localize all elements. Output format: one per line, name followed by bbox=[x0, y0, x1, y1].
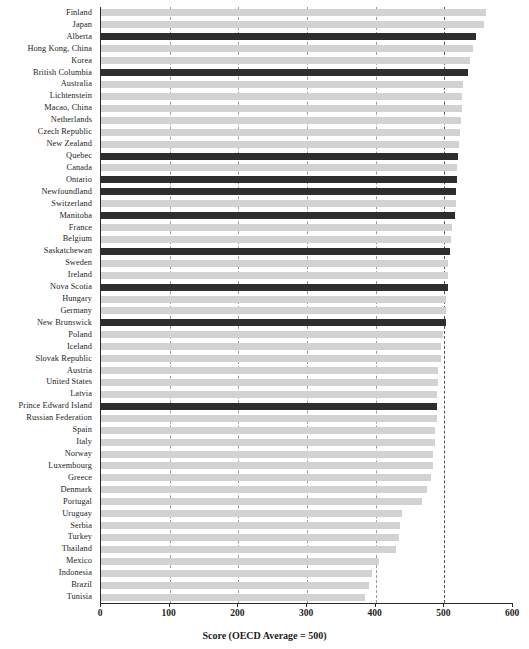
bar bbox=[101, 153, 458, 160]
category-label: Lichtenstein bbox=[0, 91, 92, 100]
x-tick-mark bbox=[100, 603, 101, 607]
category-label: Serbia bbox=[0, 521, 92, 530]
category-label-column: FinlandJapanAlbertaHong Kong, ChinaKorea… bbox=[0, 0, 96, 600]
bar bbox=[101, 33, 476, 40]
category-label: Iceland bbox=[0, 342, 92, 351]
bar bbox=[101, 9, 486, 16]
bar bbox=[101, 296, 446, 303]
category-label: Luxembourg bbox=[0, 461, 92, 470]
category-label: Hong Kong, China bbox=[0, 44, 92, 53]
category-label: Austria bbox=[0, 366, 92, 375]
category-label: Canada bbox=[0, 163, 92, 172]
category-label: Turkey bbox=[0, 532, 92, 541]
category-label: Thailand bbox=[0, 544, 92, 553]
bar bbox=[101, 486, 427, 493]
category-label: Denmark bbox=[0, 485, 92, 494]
bar bbox=[101, 391, 437, 398]
bar bbox=[101, 117, 461, 124]
bar bbox=[101, 355, 441, 362]
bar bbox=[101, 57, 470, 64]
category-label: Czech Republic bbox=[0, 127, 92, 136]
bar bbox=[101, 427, 435, 434]
plot-area bbox=[100, 7, 513, 604]
x-tick-label: 300 bbox=[299, 608, 313, 618]
category-label: Ireland bbox=[0, 270, 92, 279]
category-label: Tunisia bbox=[0, 592, 92, 601]
category-label: Uruguay bbox=[0, 509, 92, 518]
category-label: Poland bbox=[0, 330, 92, 339]
bar bbox=[101, 45, 473, 52]
category-label: Netherlands bbox=[0, 115, 92, 124]
bar bbox=[101, 343, 441, 350]
x-tick-mark bbox=[237, 603, 238, 607]
category-label: Latvia bbox=[0, 389, 92, 398]
category-label: Nova Scotia bbox=[0, 282, 92, 291]
category-label: United States bbox=[0, 377, 92, 386]
bar bbox=[101, 319, 446, 326]
category-label: Prince Edward Island bbox=[0, 401, 92, 410]
category-label: Switzerland bbox=[0, 199, 92, 208]
category-label: Japan bbox=[0, 20, 92, 29]
bar bbox=[101, 522, 400, 529]
bar bbox=[101, 21, 484, 28]
bar bbox=[101, 594, 365, 601]
bar bbox=[101, 188, 456, 195]
x-tick-label: 400 bbox=[368, 608, 382, 618]
category-label: Indonesia bbox=[0, 568, 92, 577]
bar bbox=[101, 367, 438, 374]
bar bbox=[101, 176, 457, 183]
bar bbox=[101, 474, 431, 481]
bar bbox=[101, 93, 462, 100]
bar bbox=[101, 439, 435, 446]
category-label: Slovak Republic bbox=[0, 354, 92, 363]
x-tick-mark bbox=[306, 603, 307, 607]
category-label: Manitoba bbox=[0, 211, 92, 220]
bar bbox=[101, 498, 422, 505]
bar bbox=[101, 582, 369, 589]
bar bbox=[101, 129, 460, 136]
category-label: Macao, China bbox=[0, 103, 92, 112]
category-label: Alberta bbox=[0, 32, 92, 41]
category-label: Greece bbox=[0, 473, 92, 482]
category-label: Saskatchewan bbox=[0, 246, 92, 255]
category-label: Spain bbox=[0, 425, 92, 434]
bar bbox=[101, 331, 443, 338]
category-label: Belgium bbox=[0, 234, 92, 243]
category-label: Russian Federation bbox=[0, 413, 92, 422]
category-label: Sweden bbox=[0, 258, 92, 267]
bar bbox=[101, 224, 452, 231]
x-tick-mark bbox=[443, 603, 444, 607]
category-label: Italy bbox=[0, 437, 92, 446]
x-tick-mark bbox=[512, 603, 513, 607]
bar bbox=[101, 141, 459, 148]
bar bbox=[101, 272, 448, 279]
bar bbox=[101, 570, 372, 577]
bars-layer bbox=[101, 7, 513, 603]
category-label: Quebec bbox=[0, 151, 92, 160]
bar bbox=[101, 248, 450, 255]
category-label: British Columbia bbox=[0, 68, 92, 77]
category-label: Hungary bbox=[0, 294, 92, 303]
bar bbox=[101, 546, 396, 553]
category-label: Portugal bbox=[0, 497, 92, 506]
bar bbox=[101, 200, 456, 207]
x-tick-label: 0 bbox=[98, 608, 103, 618]
x-tick-mark bbox=[169, 603, 170, 607]
x-tick-label: 500 bbox=[436, 608, 450, 618]
category-label: Norway bbox=[0, 449, 92, 458]
bar bbox=[101, 260, 448, 267]
bar bbox=[101, 534, 399, 541]
bar bbox=[101, 451, 433, 458]
category-label: France bbox=[0, 223, 92, 232]
category-label: New Brunswick bbox=[0, 318, 92, 327]
category-label: New Zealand bbox=[0, 139, 92, 148]
x-tick-label: 200 bbox=[230, 608, 244, 618]
category-label: Mexico bbox=[0, 556, 92, 565]
category-label: Ontario bbox=[0, 175, 92, 184]
bar bbox=[101, 558, 379, 565]
bar bbox=[101, 69, 468, 76]
bar bbox=[101, 510, 402, 517]
category-label: Australia bbox=[0, 79, 92, 88]
x-axis: 0100200300400500600 bbox=[100, 603, 512, 623]
bar bbox=[101, 81, 463, 88]
